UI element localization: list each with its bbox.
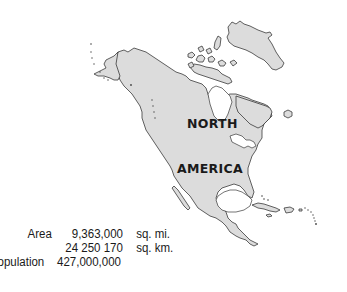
arctic-island bbox=[196, 55, 205, 62]
area-label: Area bbox=[28, 227, 52, 241]
area-row-mi: Area 9,363,000 sq. mi. bbox=[0, 227, 202, 241]
arctic-island bbox=[188, 52, 195, 58]
area-unit-km: sq. km. bbox=[136, 241, 173, 255]
map-label-america: AMERICA bbox=[177, 161, 243, 176]
arctic-island bbox=[198, 46, 204, 52]
area-unit-mi: sq. mi. bbox=[136, 227, 170, 241]
population-row: Population 427,000,000 bbox=[0, 255, 202, 269]
arctic-island bbox=[230, 60, 237, 66]
jamaica bbox=[266, 214, 272, 217]
statistics-block: Area 9,363,000 sq. mi. 24 250 170 sq. km… bbox=[0, 227, 202, 269]
arctic-island bbox=[208, 56, 215, 62]
arctic-island bbox=[206, 48, 212, 54]
area-value-mi: 9,363,000 bbox=[72, 227, 123, 241]
area-row-km: 24 250 170 sq. km. bbox=[0, 241, 202, 255]
map-label-north: NORTH bbox=[187, 116, 238, 131]
arctic-island bbox=[190, 64, 232, 84]
arctic-island bbox=[214, 36, 221, 50]
alaska-landmass bbox=[94, 52, 120, 80]
population-label: Population bbox=[0, 255, 44, 269]
north-america-landmass bbox=[114, 48, 272, 246]
cuba bbox=[252, 203, 280, 212]
hispaniola bbox=[284, 207, 294, 213]
area-value-km: 24 250 170 bbox=[65, 241, 123, 255]
population-value: 427,000,000 bbox=[57, 255, 121, 269]
newfoundland bbox=[284, 110, 292, 118]
arctic-island bbox=[218, 60, 226, 66]
puerto-rico bbox=[299, 209, 302, 211]
